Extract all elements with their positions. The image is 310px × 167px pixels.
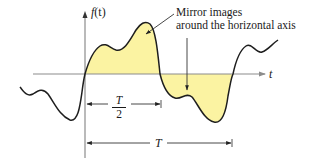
half-period-numerator: T bbox=[112, 95, 126, 108]
y-axis-arrow-icon bbox=[83, 11, 88, 18]
period-label: T bbox=[152, 136, 165, 151]
y-axis-label-arg: (t) bbox=[94, 5, 105, 19]
y-axis-label: f(t) bbox=[91, 5, 106, 20]
annotation-line-2: around the horizontal axis bbox=[176, 19, 296, 32]
x-axis-arrow-icon bbox=[259, 72, 266, 77]
x-axis-label: t bbox=[269, 67, 272, 82]
mirror-annotation: Mirror images around the horizontal axis bbox=[176, 6, 296, 32]
half-period-label: T 2 bbox=[112, 95, 126, 120]
half-wave-symmetry-diagram: f(t) t Mirror images around the horizont… bbox=[0, 0, 310, 167]
negative-half-fill bbox=[160, 74, 233, 122]
half-period-denominator: 2 bbox=[112, 108, 126, 120]
annotation-line-1: Mirror images bbox=[176, 6, 296, 19]
